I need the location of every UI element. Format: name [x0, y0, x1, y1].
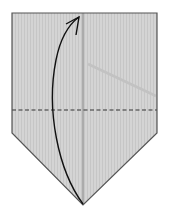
paper-shape: [12, 13, 157, 205]
origami-diagram: [0, 0, 171, 214]
diagram-canvas: [0, 0, 171, 214]
